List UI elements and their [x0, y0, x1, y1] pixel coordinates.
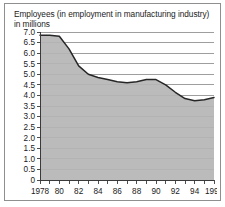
x-axis-tick-label: 90	[151, 187, 161, 196]
y-axis-tick-label: 5.0	[24, 70, 36, 79]
chart-title: Employees (in employment in manufacturin…	[14, 9, 214, 29]
y-axis-tick-label: 4.5	[24, 81, 36, 90]
x-axis-ticks	[40, 180, 214, 184]
x-axis-tick-label: 86	[113, 187, 123, 196]
x-axis-tick-label: 88	[132, 187, 142, 196]
y-axis-tick-label: 3.0	[24, 112, 36, 121]
y-axis-tick-label: 1.5	[24, 144, 36, 153]
x-axis-tick-label: 1996	[205, 187, 217, 196]
y-axis-tick-label: 5.5	[24, 60, 36, 69]
area-chart: 00.51.01.52.02.53.03.54.04.55.05.56.06.5…	[10, 28, 217, 198]
x-axis-tick-label: 94	[190, 187, 200, 196]
x-axis-tick-label: 1978	[31, 187, 50, 196]
chart-screenshot: Employees (in employment in manufacturin…	[0, 0, 225, 207]
x-axis-tick-labels: 197880828486889092941996	[31, 187, 217, 196]
y-axis-tick-label: 2.5	[24, 123, 36, 132]
y-axis-tick-labels: 00.51.01.52.02.53.03.54.04.55.05.56.06.5…	[24, 28, 36, 185]
x-axis-tick-label: 84	[93, 187, 103, 196]
y-axis-tick-label: 1.0	[24, 155, 36, 164]
chart-title-line-1: Employees (in employment in manufacturin…	[14, 9, 214, 19]
x-axis-tick-label: 82	[74, 187, 84, 196]
y-axis-tick-label: 0	[30, 176, 35, 185]
x-axis-tick-label: 80	[55, 187, 65, 196]
y-axis-tick-label: 7.0	[24, 28, 36, 37]
y-axis-tick-label: 0.5	[24, 165, 36, 174]
chart-plot-area: 00.51.01.52.02.53.03.54.04.55.05.56.06.5…	[10, 28, 217, 198]
y-axis-tick-label: 4.0	[24, 91, 36, 100]
series-area-fill	[40, 35, 214, 180]
x-axis-tick-label: 92	[171, 187, 181, 196]
chart-card: Employees (in employment in manufacturin…	[4, 3, 221, 201]
y-axis-tick-label: 6.5	[24, 38, 36, 47]
y-axis-tick-label: 2.0	[24, 134, 36, 143]
y-axis-tick-label: 6.0	[24, 49, 36, 58]
y-axis-tick-label: 3.5	[24, 102, 36, 111]
